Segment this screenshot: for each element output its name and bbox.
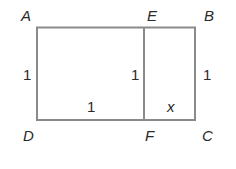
vertex-label-D: D	[23, 127, 34, 144]
vertex-label-C: C	[202, 127, 213, 144]
side-label-EF: 1	[131, 66, 139, 83]
vertex-label-B: B	[204, 7, 214, 24]
vertex-label-A: A	[20, 7, 31, 24]
side-label-DF: 1	[87, 98, 95, 115]
side-label-AD: 1	[23, 66, 31, 83]
side-label-FC: x	[166, 98, 175, 115]
vertex-label-E: E	[147, 7, 158, 24]
vertex-label-F: F	[145, 127, 155, 144]
rectangle-diagram: A E B D F C 1 1 1 1 x	[0, 0, 236, 169]
side-label-BC: 1	[203, 66, 211, 83]
